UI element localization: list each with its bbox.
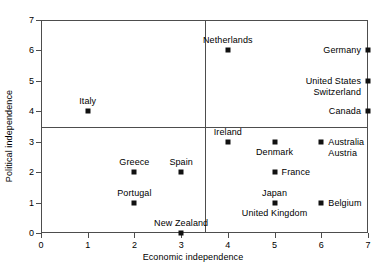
x-tick-label: 0 — [38, 240, 43, 250]
y-tick-mark — [36, 172, 41, 173]
y-tick-label: 1 — [29, 198, 34, 208]
data-point-label: Belgium — [328, 198, 361, 208]
y-axis-title: Political independence — [0, 0, 18, 272]
data-point-marker — [272, 200, 277, 205]
data-point-label: Spain — [169, 157, 193, 167]
x-tick-label: 4 — [225, 240, 230, 250]
data-point-label: Netherlands — [203, 35, 253, 45]
x-tick-mark — [134, 233, 135, 238]
x-tick-mark — [88, 233, 89, 238]
scatter-chart-figure: Political independence Economic independ… — [0, 0, 386, 272]
horizontal-reference-line — [41, 127, 368, 128]
data-point-label: Germany — [323, 45, 361, 55]
y-tick-label: 6 — [29, 45, 34, 55]
data-point-marker — [132, 200, 137, 205]
data-point-label: Canada — [329, 106, 361, 116]
data-point-marker — [319, 139, 324, 144]
data-point-marker — [225, 48, 230, 53]
data-point-label: Greece — [119, 157, 149, 167]
y-tick-mark — [36, 111, 41, 112]
data-point-marker — [179, 231, 184, 236]
x-tick-mark — [321, 233, 322, 238]
data-point-marker — [366, 48, 371, 53]
y-tick-mark — [36, 203, 41, 204]
data-point-marker — [366, 109, 371, 114]
data-point-label: New Zealand — [154, 218, 208, 228]
y-tick-label: 0 — [29, 228, 34, 238]
x-tick-label: 3 — [179, 240, 184, 250]
x-axis-title: Economic independence — [0, 252, 386, 262]
data-point-marker — [132, 170, 137, 175]
data-point-label: Austria — [328, 148, 357, 158]
y-tick-label: 3 — [29, 137, 34, 147]
plot-area: 01234567 01234567 ItalyNetherlandsGerman… — [41, 20, 368, 233]
x-tick-mark — [228, 233, 229, 238]
data-point-label: Australia — [328, 137, 364, 147]
y-tick-label: 4 — [29, 106, 34, 116]
x-tick-label: 1 — [85, 240, 90, 250]
data-point-marker — [85, 109, 90, 114]
y-tick-mark — [36, 20, 41, 21]
x-tick-label: 5 — [272, 240, 277, 250]
data-point-marker — [179, 170, 184, 175]
data-point-label: France — [282, 167, 311, 177]
y-tick-label: 2 — [29, 167, 34, 177]
y-tick-label: 5 — [29, 76, 34, 86]
x-tick-mark — [41, 233, 42, 238]
x-tick-label: 2 — [132, 240, 137, 250]
x-tick-label: 6 — [319, 240, 324, 250]
data-point-label: United States — [306, 76, 361, 86]
data-point-marker — [225, 139, 230, 144]
x-tick-mark — [275, 233, 276, 238]
data-point-label: Ireland — [214, 127, 242, 137]
data-point-marker — [319, 200, 324, 205]
data-point-label: United Kingdom — [242, 208, 307, 218]
data-point-label: Switzerland — [313, 87, 361, 97]
y-tick-mark — [36, 142, 41, 143]
data-point-marker — [366, 78, 371, 83]
data-point-marker — [272, 170, 277, 175]
y-tick-mark — [36, 81, 41, 82]
data-point-label: Portugal — [117, 188, 151, 198]
x-tick-mark — [368, 233, 369, 238]
x-tick-label: 7 — [365, 240, 370, 250]
data-point-label: Denmark — [256, 147, 293, 157]
data-point-marker — [272, 139, 277, 144]
y-tick-label: 7 — [29, 15, 34, 25]
data-point-label: Italy — [79, 96, 96, 106]
data-point-label: Japan — [262, 188, 287, 198]
y-tick-mark — [36, 50, 41, 51]
